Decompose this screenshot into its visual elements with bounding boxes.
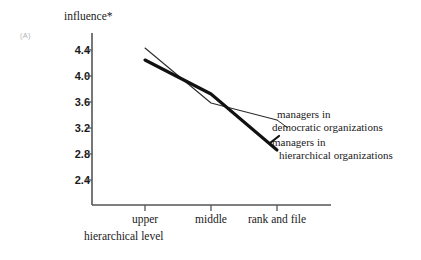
series-line-democratic bbox=[145, 48, 277, 120]
figure-panel: (A) influence* 4.4 4.0 3.6 3.2 2.8 2.4 u… bbox=[0, 0, 421, 260]
legend-leader-democratic bbox=[277, 120, 288, 128]
series-line-hierarchical bbox=[145, 60, 277, 150]
plot-canvas bbox=[0, 0, 421, 260]
legend-leader-hierarchical bbox=[270, 136, 279, 143]
